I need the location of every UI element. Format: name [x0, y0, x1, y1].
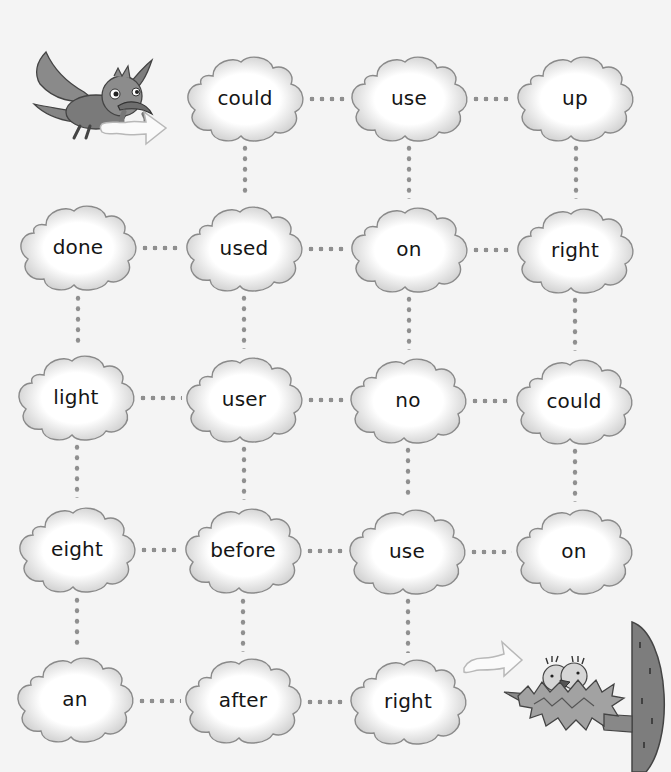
- dotted-path-horizontal: [139, 547, 181, 553]
- cloud-word: up: [513, 86, 637, 110]
- word-cloud-r1c2[interactable]: on: [347, 203, 471, 295]
- word-cloud-r4c0[interactable]: an: [13, 653, 137, 745]
- dotted-path-horizontal: [471, 96, 513, 102]
- dotted-path-vertical: [573, 143, 579, 199]
- word-cloud-r1c1[interactable]: used: [182, 202, 306, 294]
- dotted-path-horizontal: [305, 548, 345, 554]
- cloud-word: right: [346, 689, 470, 713]
- cloud-word: user: [182, 387, 306, 411]
- cloud-word: done: [16, 235, 140, 259]
- cloud-word: before: [181, 538, 305, 562]
- word-cloud-r3c1[interactable]: before: [181, 504, 305, 596]
- cloud-word: light: [14, 385, 138, 409]
- dotted-path-vertical: [241, 444, 247, 500]
- dotted-path-horizontal: [306, 397, 346, 403]
- dotted-path-vertical: [406, 294, 412, 350]
- word-cloud-r1c3[interactable]: right: [513, 204, 637, 296]
- cloud-word: right: [513, 238, 637, 262]
- word-cloud-r2c2[interactable]: no: [346, 354, 470, 446]
- dotted-path-vertical: [241, 293, 247, 349]
- word-cloud-r3c3[interactable]: on: [512, 505, 636, 597]
- word-maze-board: could use up: [0, 0, 671, 772]
- dotted-path-vertical: [74, 595, 80, 650]
- dotted-path-vertical: [74, 442, 80, 498]
- start-arrow-icon: [98, 108, 170, 148]
- cloud-word: could: [512, 389, 636, 413]
- cloud-word: eight: [15, 537, 139, 561]
- cloud-word: after: [181, 688, 305, 712]
- word-cloud-r0c1[interactable]: could: [183, 52, 307, 144]
- cloud-word: use: [345, 539, 469, 563]
- dotted-path-vertical: [405, 596, 411, 653]
- nest-with-chicks-icon: [500, 618, 671, 772]
- cloud-word: use: [347, 86, 471, 110]
- word-cloud-r2c1[interactable]: user: [182, 353, 306, 445]
- dotted-path-horizontal: [140, 245, 182, 251]
- cloud-word: used: [182, 236, 306, 260]
- dotted-path-horizontal: [469, 549, 512, 555]
- word-cloud-r0c2[interactable]: use: [347, 52, 471, 144]
- dotted-path-vertical: [405, 445, 411, 500]
- word-cloud-r3c2[interactable]: use: [345, 505, 469, 597]
- cloud-word: on: [347, 237, 471, 261]
- word-cloud-r1c0[interactable]: done: [16, 201, 140, 293]
- word-cloud-r4c1[interactable]: after: [181, 654, 305, 746]
- dotted-path-vertical: [406, 143, 412, 199]
- word-cloud-r2c3[interactable]: could: [512, 355, 636, 447]
- dotted-path-horizontal: [137, 698, 181, 704]
- dotted-path-vertical: [240, 596, 246, 652]
- word-cloud-r0c3[interactable]: up: [513, 52, 637, 144]
- dotted-path-vertical: [75, 293, 81, 347]
- cloud-word: an: [13, 687, 137, 711]
- dotted-path-vertical: [572, 446, 578, 502]
- dotted-path-horizontal: [306, 246, 347, 252]
- dotted-path-horizontal: [307, 96, 347, 102]
- dotted-path-vertical: [572, 295, 578, 351]
- word-cloud-r4c2[interactable]: right: [346, 655, 470, 747]
- cloud-word: could: [183, 86, 307, 110]
- word-cloud-r3c0[interactable]: eight: [15, 503, 139, 595]
- word-cloud-r2c0[interactable]: light: [14, 351, 138, 443]
- cloud-word: no: [346, 388, 470, 412]
- dotted-path-horizontal: [305, 699, 346, 705]
- cloud-word: on: [512, 539, 636, 563]
- dotted-path-horizontal: [471, 247, 513, 253]
- dotted-path-horizontal: [138, 395, 182, 401]
- dotted-path-vertical: [242, 143, 248, 198]
- dotted-path-horizontal: [470, 398, 512, 404]
